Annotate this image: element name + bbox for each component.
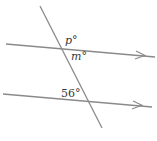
angle-label-m: m° <box>71 50 87 63</box>
angle-label-p: p° <box>65 34 78 47</box>
angle-diagram: p° m° 56° <box>0 0 157 141</box>
angle-label-56: 56° <box>61 87 81 100</box>
transversal-line <box>40 6 102 128</box>
